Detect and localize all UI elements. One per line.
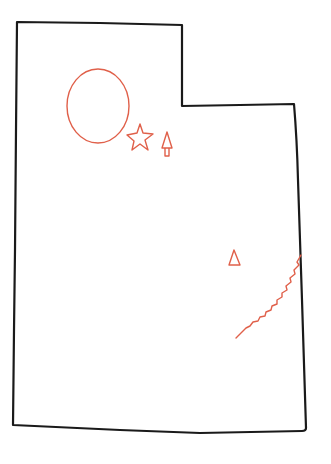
state-outline: [13, 22, 306, 433]
mountain-peak-icon: [229, 250, 240, 265]
lake-circle-icon: [67, 69, 129, 143]
map-canvas: [0, 0, 331, 464]
capital-star-icon: [127, 124, 153, 150]
utah-map: [0, 0, 331, 464]
river-icon: [236, 255, 301, 338]
tree-icon: [162, 132, 172, 156]
